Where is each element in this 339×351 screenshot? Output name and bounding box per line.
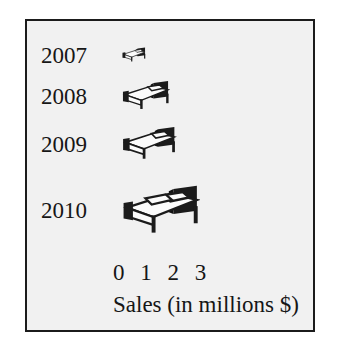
pictograph-row-2009: 2009	[41, 119, 307, 169]
pictograph-row-2007: 2007	[41, 34, 307, 76]
pictograph-row-2008: 2008	[41, 73, 307, 119]
year-label-2008: 2008	[41, 85, 113, 108]
bed-icon-cell-2008	[122, 73, 170, 119]
bed-icon	[122, 47, 146, 63]
x-axis-tick-labels: 0 1 2 3	[113, 261, 211, 284]
bed-icon-cell-2007	[122, 34, 146, 76]
x-axis-title: Sales (in millions $)	[113, 293, 299, 316]
bed-icon	[122, 126, 177, 162]
bed-icon-cell-2009	[122, 119, 177, 169]
year-label-2009: 2009	[41, 133, 113, 156]
bed-icon	[122, 184, 200, 236]
pictograph-chart-frame: 2007	[25, 19, 315, 332]
bed-icon-cell-2010	[122, 177, 200, 243]
bed-icon	[122, 80, 170, 112]
year-label-2010: 2010	[41, 199, 113, 222]
year-label-2007: 2007	[41, 44, 113, 67]
pictograph-row-2010: 2010	[41, 177, 307, 243]
